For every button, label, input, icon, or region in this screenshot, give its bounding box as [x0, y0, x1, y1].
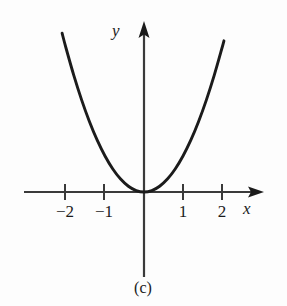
x-axis-label: x — [243, 200, 251, 217]
x-tick-label-minus-1: −1 — [86, 203, 122, 220]
figure-caption: (c) — [113, 280, 173, 296]
x-tick-label-plus-2: 2 — [204, 203, 240, 220]
x-tick-label-plus-1: 1 — [165, 203, 201, 220]
figure-container: y x −2 −1 1 2 (c) — [0, 0, 287, 306]
x-tick-label-minus-2: −2 — [47, 203, 83, 220]
parabola-plot — [0, 0, 287, 306]
y-axis-label: y — [112, 22, 120, 39]
